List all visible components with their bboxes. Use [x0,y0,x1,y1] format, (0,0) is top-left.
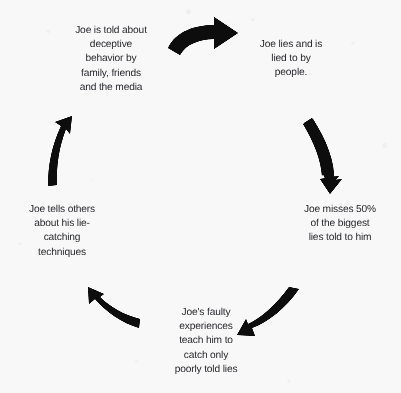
arrow-left-icon [48,116,72,186]
arrow-bottom-left-icon [88,287,140,328]
node-faulty-experiences: Joe's faulty experiences teach him to ca… [146,306,266,377]
arrow-top-icon [168,17,238,55]
deception-cycle-diagram: Joe is told about deceptive behavior by … [0,0,401,393]
node-lies-and-lied-to: Joe lies and is lied to by people. [238,38,344,81]
node-told-about-deception: Joe is told about deceptive behavior by … [48,24,174,95]
node-tells-others: Joe tells others about his lie- catching… [6,203,118,260]
arrow-right-icon [303,118,342,194]
node-misses-biggest-lies: Joe misses 50% of the biggest lies told … [284,203,396,246]
